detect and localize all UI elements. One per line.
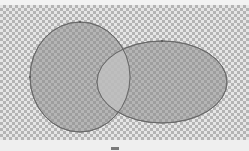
control-point-left-left[interactable] bbox=[29, 76, 31, 78]
control-point-left-top[interactable] bbox=[79, 21, 81, 23]
drag-handle-icon[interactable] bbox=[111, 147, 119, 150]
bottom-bar bbox=[0, 140, 249, 151]
venn-diagram bbox=[0, 0, 249, 151]
control-point-right-top[interactable] bbox=[161, 40, 163, 42]
